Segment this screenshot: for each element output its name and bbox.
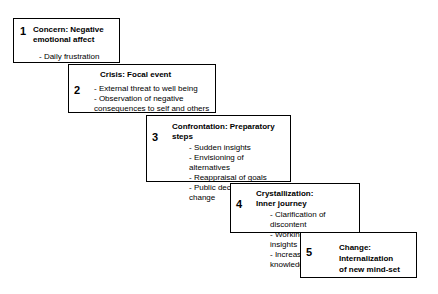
stage-box-5[interactable]: 5 Change: Internalization of new mind-se… (300, 232, 417, 278)
stage-list-1: - Daily frustration (33, 52, 114, 62)
stage-number-2: 2 (74, 85, 89, 96)
stage-title-1: Concern: Negative emotional affect (33, 25, 114, 45)
stage-list-item: - External threat to well being (94, 84, 211, 94)
stage-content-2: Crisis: Focal event - External threat to… (89, 70, 211, 114)
stage-number-3: 3 (152, 132, 167, 143)
stage-title-4: Crystallization: Inner journey (256, 189, 355, 209)
stage-number-5: 5 (306, 247, 326, 258)
stage-list-item: - Envisioning of alternatives (189, 153, 286, 173)
stage-title-3: Confrontation: Preparatory steps (172, 122, 286, 142)
stage-diagram: 1 Concern: Negative emotional affect - D… (0, 0, 438, 294)
stage-number-4: 4 (236, 199, 250, 210)
stage-list-item: - Observation of negative consequences t… (94, 94, 211, 114)
stage-number-1: 1 (20, 26, 33, 37)
stage-content-5: Change: Internalization of new mind-set (326, 242, 412, 275)
stage-box-3[interactable]: 3 Confrontation: Preparatory steps - Sud… (146, 115, 291, 182)
stage-box-4[interactable]: 4 Crystallization: Inner journey - Clari… (230, 183, 360, 233)
stage-content-1: Concern: Negative emotional affect - Dai… (33, 25, 114, 62)
stage-list-item: - Clarification of discontent (270, 210, 355, 230)
stage-list-item: - Reappraisal of goals (189, 173, 286, 183)
stage-title-2: Crisis: Focal event (100, 70, 211, 80)
stage-title-5: Change: Internalization of new mind-set (339, 242, 412, 275)
stage-list-2: - External threat to well being - Observ… (89, 84, 211, 114)
stage-box-1[interactable]: 1 Concern: Negative emotional affect - D… (13, 18, 120, 63)
stage-box-2[interactable]: 2 Crisis: Focal event - External threat … (68, 64, 216, 113)
stage-list-item: - Sudden insights (189, 143, 286, 153)
stage-list-item: - Daily frustration (39, 52, 114, 62)
